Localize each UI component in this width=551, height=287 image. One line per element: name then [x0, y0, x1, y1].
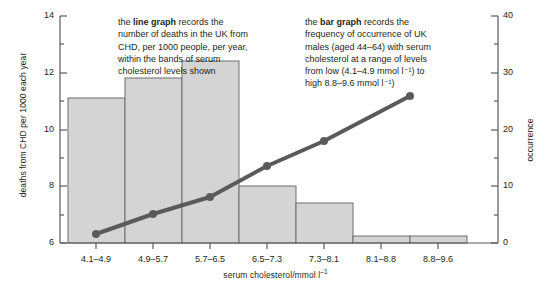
bar-note-pre: the — [305, 17, 320, 27]
y-right-tick-40: 40 — [503, 10, 533, 20]
x-axis-title-text: serum cholesterol/mmol l — [223, 270, 320, 280]
bar-note-post: records the frequency of occurrence of U… — [305, 17, 431, 88]
x-tick-label-7: 8.8–9.6 — [408, 254, 468, 264]
bar-8.8-9.6 — [410, 236, 467, 243]
x-tick-label-3: 5.7–6.5 — [180, 254, 240, 264]
x-tick-label-5: 7.3–8.1 — [294, 254, 354, 264]
line-point-6 — [406, 92, 414, 100]
bar-note-bold: bar graph — [320, 17, 362, 27]
bar-graph-note: the bar graph records the frequency of o… — [305, 16, 485, 90]
bar-8.1-8.8 — [353, 236, 410, 243]
left-axis — [60, 16, 67, 243]
x-axis-title: serum cholesterol/mmol l–1 — [0, 268, 551, 280]
y-right-tick-0: 0 — [503, 237, 533, 247]
right-axis — [491, 16, 498, 243]
line-graph-note: the line graph records the number of dea… — [118, 16, 293, 77]
x-tick-label-4: 6.5–7.3 — [237, 254, 297, 264]
y-axis-left-title: deaths from CHD per 1000 each year — [18, 40, 28, 210]
x-tick-label-6: 8.1–8.8 — [351, 254, 411, 264]
bar-7.3-8.1 — [296, 203, 353, 243]
bar-4.1-4.9 — [68, 98, 125, 243]
x-axis — [60, 243, 498, 249]
y-left-tick-6: 6 — [22, 237, 54, 247]
line-point-2 — [149, 210, 157, 218]
chart-figure: 14 12 10 8 6 40 30 20 10 0 4.1–4.9 4.9–5… — [0, 0, 551, 287]
line-note-bold: line graph — [133, 17, 176, 27]
y-left-tick-14: 14 — [22, 10, 54, 20]
x-axis-title-superscript: –1 — [320, 268, 327, 275]
line-point-4 — [263, 162, 271, 170]
y-axis-right-title: occurrence — [525, 80, 535, 200]
bar-4.9-5.7 — [125, 78, 182, 243]
line-note-pre: the — [118, 17, 133, 27]
x-tick-label-2: 4.9–5.7 — [123, 254, 183, 264]
bar-6.5-7.3 — [239, 186, 296, 243]
line-point-1 — [92, 230, 100, 238]
line-point-3 — [206, 193, 214, 201]
x-tick-label-1: 4.1–4.9 — [66, 254, 126, 264]
line-point-5 — [320, 137, 328, 145]
bar-5.7-6.5 — [182, 61, 239, 243]
y-right-tick-30: 30 — [503, 67, 533, 77]
